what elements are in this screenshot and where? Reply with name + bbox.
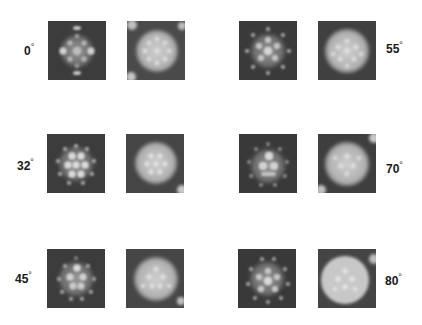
particle-projection-icon <box>239 134 297 193</box>
particle-projection-icon <box>47 249 105 308</box>
angle-label-45: 45° <box>15 270 32 286</box>
computed-projection-32deg <box>47 134 105 193</box>
particle-micrograph-icon <box>318 21 376 80</box>
micrograph-0deg <box>127 21 185 80</box>
particle-micrograph-icon <box>126 134 184 193</box>
micrograph-32deg <box>126 134 184 193</box>
particle-micrograph-icon <box>127 21 185 80</box>
angle-label-32: 32° <box>17 157 34 173</box>
angle-label-0: 0° <box>24 42 34 58</box>
micrograph-70deg <box>318 134 376 193</box>
particle-projection-icon <box>239 21 297 80</box>
particle-micrograph-icon <box>318 249 376 308</box>
angle-label-80: 80° <box>385 272 402 288</box>
particle-projection-icon <box>238 249 296 308</box>
particle-projection-icon <box>47 134 105 193</box>
angle-label-55: 55° <box>386 40 403 56</box>
particle-micrograph-icon <box>318 134 376 193</box>
micrograph-55deg <box>318 21 376 80</box>
angle-label-70: 70° <box>386 160 403 176</box>
particle-projection-icon <box>48 21 106 80</box>
computed-projection-70deg <box>239 134 297 193</box>
micrograph-80deg <box>318 249 376 308</box>
particle-micrograph-icon <box>126 249 184 308</box>
computed-projection-80deg <box>238 249 296 308</box>
computed-projection-0deg <box>48 21 106 80</box>
computed-projection-45deg <box>47 249 105 308</box>
computed-projection-55deg <box>239 21 297 80</box>
micrograph-45deg <box>126 249 184 308</box>
